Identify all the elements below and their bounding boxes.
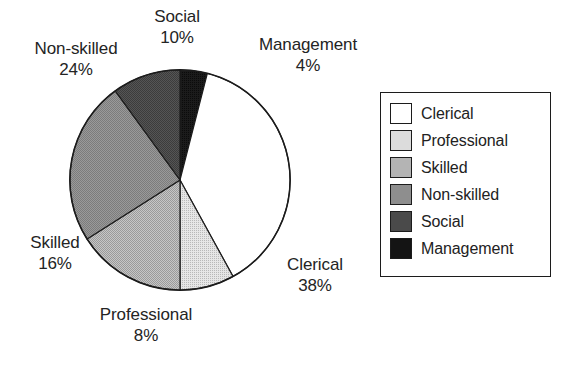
legend-item-label: Social bbox=[421, 213, 464, 231]
legend-swatch-management bbox=[390, 238, 412, 259]
slice-label-non-skilled-pct: 24% bbox=[12, 59, 140, 80]
pie-chart-figure: Social 10% Management 4% Non-skilled 24%… bbox=[0, 0, 564, 375]
slice-label-management-pct: 4% bbox=[238, 55, 378, 76]
slice-label-professional: Professional 8% bbox=[74, 304, 218, 346]
slice-label-professional-pct: 8% bbox=[74, 325, 218, 346]
slice-label-clerical-pct: 38% bbox=[262, 275, 368, 296]
legend-item[interactable]: Clerical bbox=[390, 100, 545, 127]
legend-swatch-skilled bbox=[390, 157, 412, 178]
legend-item-label: Non-skilled bbox=[421, 186, 499, 204]
legend-item-label: Skilled bbox=[421, 159, 467, 177]
legend-item-label: Management bbox=[421, 240, 513, 258]
slice-label-skilled: Skilled 16% bbox=[2, 232, 108, 274]
slice-label-skilled-pct: 16% bbox=[2, 253, 108, 274]
legend-item[interactable]: Social bbox=[390, 208, 545, 235]
slice-label-management: Management 4% bbox=[238, 34, 378, 76]
legend-item[interactable]: Skilled bbox=[390, 154, 545, 181]
legend-item-label: Clerical bbox=[421, 105, 474, 123]
legend-item[interactable]: Professional bbox=[390, 127, 545, 154]
legend-item[interactable]: Non-skilled bbox=[390, 181, 545, 208]
legend-swatch-social bbox=[390, 211, 412, 232]
legend-item-label: Professional bbox=[421, 132, 508, 150]
slice-label-non-skilled-name: Non-skilled bbox=[35, 39, 118, 58]
legend-item-list: ClericalProfessionalSkilledNon-skilledSo… bbox=[390, 100, 545, 262]
slice-label-clerical-name: Clerical bbox=[287, 255, 343, 274]
chart-legend: ClericalProfessionalSkilledNon-skilledSo… bbox=[380, 92, 551, 277]
legend-swatch-non-skilled bbox=[390, 184, 412, 205]
slice-label-professional-name: Professional bbox=[100, 305, 192, 324]
legend-swatch-clerical bbox=[390, 103, 412, 124]
slice-label-non-skilled: Non-skilled 24% bbox=[12, 38, 140, 80]
slice-label-social-name: Social bbox=[154, 7, 200, 26]
slice-label-clerical: Clerical 38% bbox=[262, 254, 368, 296]
legend-swatch-professional bbox=[390, 130, 412, 151]
legend-item[interactable]: Management bbox=[390, 235, 545, 262]
slice-label-management-name: Management bbox=[259, 35, 357, 54]
slice-label-skilled-name: Skilled bbox=[30, 233, 79, 252]
